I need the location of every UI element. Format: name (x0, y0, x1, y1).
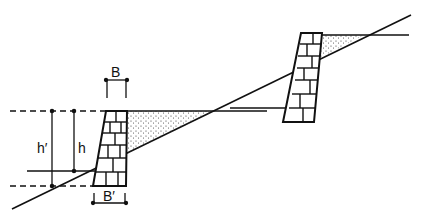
backfill-wedge-upper (320, 34, 366, 58)
retaining-wall-diagram: h′ h B B′ (0, 0, 421, 220)
lower-masonry-wall (93, 111, 127, 186)
height-dimension (72, 109, 75, 172)
total-height-label: h′ (37, 140, 48, 156)
top-width-dimension (105, 79, 129, 99)
upper-masonry-wall (283, 33, 322, 122)
base-width-label: B′ (103, 188, 115, 204)
total-height-dimension (50, 109, 53, 187)
top-width-label: B (111, 64, 120, 80)
height-label: h (78, 140, 86, 156)
